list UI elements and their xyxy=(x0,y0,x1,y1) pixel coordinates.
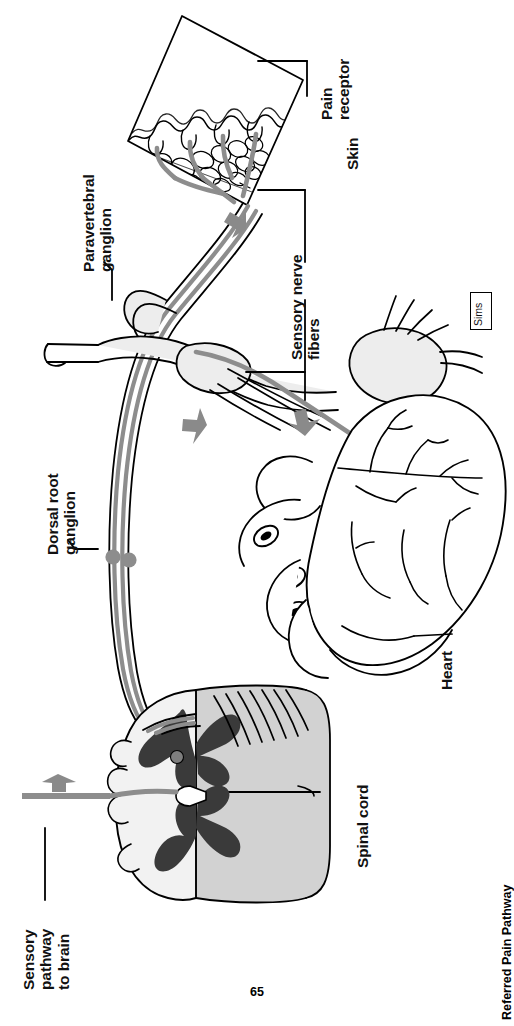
synapse-node xyxy=(171,751,184,764)
label-pain-receptor: Pain receptor xyxy=(318,59,353,120)
dorsal-root-ganglion-node-2 xyxy=(121,552,136,567)
figure-caption: Referred Pain Pathway xyxy=(500,885,514,1020)
label-sensory-pathway-to-brain: Sensory pathway to brain xyxy=(20,929,72,990)
label-paravertebral-ganglion: Paravertebral ganglion xyxy=(80,174,115,272)
label-sensory-nerve-fibers: Sensory nerve fibers xyxy=(288,254,323,360)
spinal-cord xyxy=(22,686,330,903)
heart-illustration xyxy=(239,395,505,678)
label-skin: Skin xyxy=(344,138,361,170)
dorsal-root-ganglion-node-1 xyxy=(105,549,120,564)
label-dorsal-root-ganglion: Dorsal root ganglion xyxy=(44,473,79,555)
label-heart: Heart xyxy=(438,651,455,690)
page-number: 65 xyxy=(0,985,514,999)
sims-credit-box: Sims xyxy=(470,292,492,330)
skin-tissue-block xyxy=(128,16,304,213)
sims-credit-text: Sims xyxy=(472,303,484,326)
label-spinal-cord: Spinal cord xyxy=(354,785,371,868)
